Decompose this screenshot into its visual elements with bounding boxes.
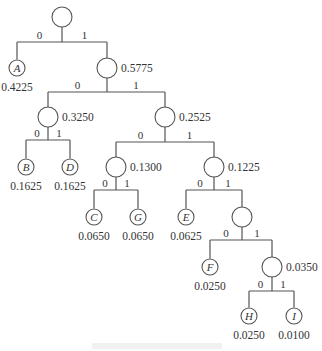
node-weight: 0.0350	[286, 261, 318, 273]
bit-label-0: 0	[258, 278, 264, 290]
bit-label-0: 0	[37, 29, 43, 41]
node-circle	[204, 157, 224, 177]
branch-edge-n1300	[94, 176, 138, 209]
leaf-node-H: H0.0250	[233, 308, 265, 341]
branch-edge-n1225	[186, 176, 242, 209]
node-weight: 0.0650	[122, 230, 154, 242]
branch-edge-root	[17, 26, 107, 60]
leaf-node-E: E0.0625	[170, 209, 202, 242]
node-symbol: B	[23, 161, 30, 173]
node-weight: 0.0100	[278, 329, 310, 341]
node-weight: 0.1300	[130, 161, 162, 173]
bit-label-1: 1	[225, 177, 231, 189]
figure-caption	[92, 343, 222, 349]
node-symbol: A	[13, 62, 21, 74]
node-weight: 0.0250	[233, 329, 265, 341]
internal-node	[52, 7, 72, 27]
node-circle	[232, 207, 252, 227]
node-symbol: E	[182, 211, 190, 223]
bit-label-1: 1	[56, 127, 62, 139]
node-weight: 0.1225	[228, 161, 260, 173]
bit-label-0: 0	[138, 129, 144, 141]
node-weight: 0.5775	[121, 62, 153, 74]
branch-edge-n3250	[26, 126, 70, 159]
leaf-node-I: I0.0100	[278, 308, 310, 341]
branch-edge-n2525	[116, 126, 214, 159]
node-symbol: C	[90, 211, 98, 223]
internal-node: 0.3250	[38, 107, 94, 127]
branch-edge-n0600	[210, 226, 272, 259]
node-symbol: D	[65, 161, 74, 173]
leaf-node-C: C0.0650	[78, 209, 110, 242]
node-weight: 0.0250	[194, 280, 226, 292]
bit-label-1: 1	[133, 79, 139, 91]
bit-label-1: 1	[82, 29, 88, 41]
bit-label-0: 0	[223, 227, 229, 239]
internal-node: 0.1300	[106, 157, 162, 177]
bit-label-1: 1	[187, 129, 193, 141]
internal-node	[232, 207, 252, 227]
node-weight: 0.4225	[1, 81, 33, 93]
leaf-node-F: F0.0250	[194, 259, 226, 292]
node-circle	[38, 107, 58, 127]
internal-node: 0.2525	[155, 107, 211, 127]
leaf-node-B: B0.1625	[10, 159, 42, 192]
node-weight: 0.2525	[179, 111, 211, 123]
node-symbol: F	[206, 261, 214, 273]
internal-node: 0.5775	[97, 58, 153, 78]
internal-node: 0.0350	[262, 257, 318, 277]
node-circle	[155, 107, 175, 127]
leaf-node-A: A0.4225	[1, 60, 33, 93]
node-weight: 0.1625	[54, 180, 86, 192]
huffman-tree-diagram: 0101010101010101 A0.42250.57750.32500.25…	[0, 0, 322, 351]
node-symbol: H	[244, 310, 254, 322]
caption-placeholder	[92, 343, 222, 349]
bit-label-0: 0	[102, 177, 108, 189]
node-weight: 0.0625	[170, 230, 202, 242]
node-circle	[106, 157, 126, 177]
node-weight: 0.1625	[10, 180, 42, 192]
bit-label-1: 1	[124, 177, 130, 189]
leaf-node-D: D0.1625	[54, 159, 86, 192]
branch-edge-n5775	[48, 77, 165, 109]
bit-label-0: 0	[75, 79, 81, 91]
node-weight: 0.0650	[78, 230, 110, 242]
bit-label-0: 0	[34, 127, 40, 139]
node-circle	[262, 257, 282, 277]
node-weight: 0.3250	[62, 111, 94, 123]
node-symbol: G	[134, 211, 142, 223]
branch-edge-n0350	[249, 276, 294, 308]
bit-label-0: 0	[197, 177, 203, 189]
bit-label-1: 1	[254, 227, 260, 239]
bit-label-1: 1	[280, 278, 286, 290]
internal-node: 0.1225	[204, 157, 260, 177]
node-circle	[52, 7, 72, 27]
leaf-node-G: G0.0650	[122, 209, 154, 242]
node-circle	[97, 58, 117, 78]
